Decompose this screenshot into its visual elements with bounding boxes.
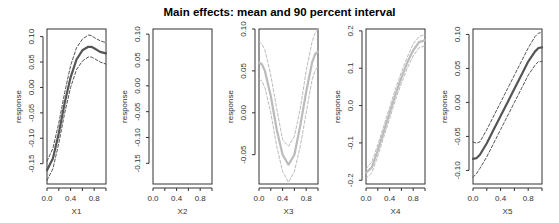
- y-axis-label: response: [226, 90, 235, 123]
- x-tick-label: 0.4: [384, 194, 396, 203]
- y-tick-label: -0.15: [133, 154, 142, 173]
- plot-frame: [259, 29, 318, 184]
- panel-x4: 0.00.40.8X4-0.2-0.10.00.10.2response: [333, 25, 425, 216]
- panel-x5: 0.00.40.8X5-0.10-0.050.000.050.10respons…: [440, 26, 542, 216]
- x-tick-label: 0.8: [408, 194, 420, 203]
- plot-frame: [47, 29, 106, 184]
- y-tick-label: 0.05: [239, 63, 248, 79]
- interval-line: [473, 62, 542, 178]
- y-tick-label: -0.1: [346, 135, 355, 149]
- y-tick-label: 0.00: [453, 94, 462, 110]
- x-tick-label: 0.4: [171, 194, 183, 203]
- y-tick-label: -0.10: [133, 128, 142, 147]
- y-tick-label: 0.05: [133, 52, 142, 68]
- interval-line: [47, 57, 106, 180]
- y-tick-label: -0.15: [27, 154, 36, 173]
- plot-frame: [153, 29, 212, 184]
- y-tick-label: 0.10: [239, 21, 248, 37]
- x-axis-label: X4: [391, 207, 401, 216]
- y-tick-label: -0.10: [453, 161, 462, 180]
- x-tick-label: 0.4: [65, 194, 77, 203]
- x-axis-label: X2: [178, 207, 188, 216]
- y-tick-label: 0.1: [346, 62, 355, 74]
- x-tick-label: 0.8: [195, 194, 207, 203]
- mean-line: [259, 52, 318, 165]
- x-tick-label: 0.0: [360, 194, 372, 203]
- main-effects-chart: 0.00.40.8X1-0.15-0.10-0.050.000.050.10re…: [0, 0, 559, 223]
- interval-line: [366, 35, 425, 170]
- x-tick-label: 0.4: [495, 194, 507, 203]
- plot-frame: [473, 29, 542, 184]
- y-axis-label: response: [120, 90, 129, 123]
- y-tick-label: 0.2: [346, 25, 355, 37]
- x-tick-label: 0.8: [301, 194, 313, 203]
- y-tick-label: 0.00: [239, 104, 248, 120]
- x-tick-label: 0.4: [277, 194, 289, 203]
- y-tick-label: -0.05: [133, 102, 142, 121]
- y-tick-label: 0.0: [346, 99, 355, 111]
- x-tick-label: 0.0: [41, 194, 53, 203]
- panel-x1: 0.00.40.8X1-0.15-0.10-0.050.000.050.10re…: [14, 28, 106, 216]
- y-axis-label: response: [440, 90, 449, 123]
- y-tick-label: 0.10: [133, 26, 142, 42]
- y-tick-label: -0.2: [346, 173, 355, 187]
- y-tick-label: 0.05: [453, 60, 462, 76]
- y-tick-label: 0.10: [453, 26, 462, 42]
- y-axis-label: response: [333, 90, 342, 123]
- x-axis-label: X3: [284, 207, 294, 216]
- y-tick-label: 0.00: [133, 78, 142, 94]
- y-tick-label: -0.05: [453, 127, 462, 146]
- panel-x2: 0.00.40.8X2-0.15-0.10-0.050.000.050.10re…: [120, 26, 212, 216]
- x-axis-label: X1: [72, 207, 82, 216]
- x-tick-label: 0.8: [523, 194, 535, 203]
- y-tick-label: 0.10: [27, 28, 36, 44]
- x-tick-label: 0.0: [253, 194, 265, 203]
- x-tick-label: 0.0: [467, 194, 479, 203]
- mean-line: [473, 47, 542, 158]
- interval-line: [473, 32, 542, 143]
- x-tick-label: 0.8: [89, 194, 101, 203]
- mean-line: [47, 47, 106, 171]
- y-tick-label: 0.05: [27, 54, 36, 70]
- x-axis-label: X5: [503, 207, 513, 216]
- y-axis-label: response: [14, 90, 23, 123]
- panel-x3: 0.00.40.8X3-0.050.000.050.10response: [226, 21, 318, 216]
- y-tick-label: 0.00: [27, 79, 36, 95]
- y-tick-label: -0.05: [27, 103, 36, 122]
- x-tick-label: 0.0: [147, 194, 159, 203]
- y-tick-label: -0.10: [27, 129, 36, 148]
- mean-line: [366, 40, 425, 173]
- y-tick-label: -0.05: [239, 145, 248, 164]
